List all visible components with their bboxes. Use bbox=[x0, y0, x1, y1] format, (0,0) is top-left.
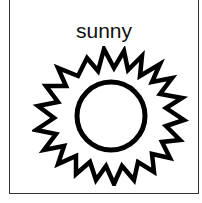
sun-icon bbox=[32, 46, 190, 186]
weather-card: sunny bbox=[9, 0, 199, 194]
weather-label: sunny bbox=[10, 19, 198, 43]
